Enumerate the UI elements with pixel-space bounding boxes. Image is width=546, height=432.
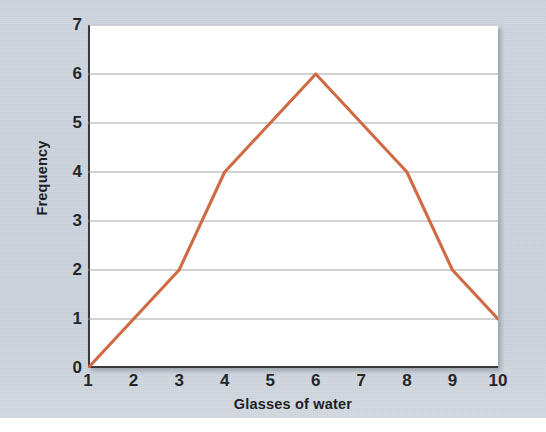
x-tick-label-6: 6 bbox=[299, 372, 333, 389]
x-tick-label-4: 4 bbox=[208, 372, 242, 389]
y-axis-title: Frequency bbox=[34, 118, 50, 238]
x-tick-label-5: 5 bbox=[253, 372, 287, 389]
x-tick-label-2: 2 bbox=[117, 372, 151, 389]
x-axis-title: Glasses of water bbox=[88, 396, 498, 412]
x-tick-label-8: 8 bbox=[390, 372, 424, 389]
x-tick-labels: 12345678910 bbox=[0, 0, 546, 432]
x-tick-label-7: 7 bbox=[344, 372, 378, 389]
frequency-polygon-figure: 01234567 12345678910 Frequency Glasses o… bbox=[0, 0, 546, 432]
x-tick-label-1: 1 bbox=[71, 372, 105, 389]
x-tick-label-3: 3 bbox=[162, 372, 196, 389]
x-tick-label-10: 10 bbox=[481, 372, 515, 389]
x-tick-label-9: 9 bbox=[435, 372, 469, 389]
